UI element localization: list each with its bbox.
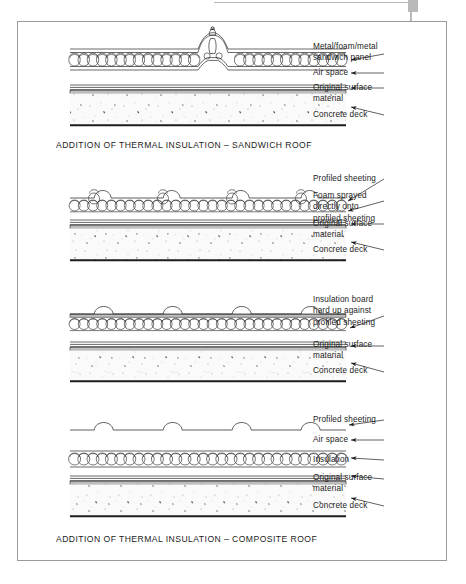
diagram-page: Metal/foam/metal sandwich panel Air spac…	[0, 0, 466, 584]
figure-1-label-2: Original surface material	[313, 82, 372, 105]
figure-2-label-3: Concrete deck	[313, 244, 367, 255]
figure-4-label-4: Concrete deck	[313, 500, 367, 511]
figure-composite-roof-drawing	[18, 414, 448, 539]
figure-4-label-0: Profiled sheeting	[313, 414, 376, 425]
figure-3-label-0: Insulation board hard up against profile…	[313, 294, 375, 328]
figure-4-label-3: Original surface material	[313, 472, 372, 495]
figure-4-label-1: Air space	[313, 434, 348, 445]
figure-sandwich-roof-drawing	[18, 22, 448, 147]
figure-foam-sprayed-drawing	[18, 174, 448, 289]
figure-3-label-1: Original surface material	[313, 339, 372, 362]
figure-2-label-2: Original surface material	[313, 218, 372, 241]
figure-1-label-1: Air space	[313, 67, 348, 78]
figure-insulation-board-drawing	[18, 294, 448, 404]
figure-4-label-2: Insulation	[313, 454, 349, 465]
figure-1-caption: ADDITION OF THERMAL INSULATION – SANDWIC…	[56, 140, 312, 150]
figure-1-label-3: Concrete deck	[313, 109, 367, 120]
page-top-rule	[214, 2, 408, 3]
diagram-frame: Metal/foam/metal sandwich panel Air spac…	[17, 21, 447, 561]
figure-3-label-2: Concrete deck	[313, 365, 367, 376]
figure-4-caption: ADDITION OF THERMAL INSULATION – COMPOSI…	[56, 534, 317, 544]
figure-1-label-0: Metal/foam/metal sandwich panel	[313, 41, 378, 64]
figure-2-label-0: Profiled sheeting	[313, 173, 376, 184]
page-corner-mark	[408, 0, 418, 12]
